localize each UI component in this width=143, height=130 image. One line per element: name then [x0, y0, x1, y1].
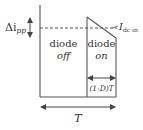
diode-off-label-line2: off: [57, 50, 72, 61]
diode-off-label-line1: diode: [50, 38, 78, 49]
period-label: T: [74, 112, 83, 125]
diode-current-diagram: Δipp Idc in diode off diode on (1-D)T T: [0, 0, 143, 130]
on-interval-label: (1-D)T: [89, 84, 114, 93]
diode-on-label-line1: diode: [88, 38, 116, 49]
dc-input-current-label: Idc in: [118, 21, 138, 33]
diode-on-label-line2: on: [95, 50, 107, 61]
ripple-label: Δipp: [5, 21, 26, 35]
